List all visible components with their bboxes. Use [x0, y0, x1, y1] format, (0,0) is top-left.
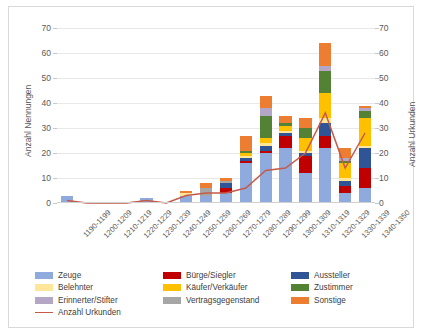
- y-tick-right: 70: [379, 24, 405, 32]
- legend-swatch: [35, 272, 53, 279]
- legend-swatch: [35, 312, 53, 313]
- legend-item[interactable]: Vertragsgegenstand: [163, 294, 259, 306]
- y-tick-left: 40: [25, 99, 51, 107]
- y-tick-left: 20: [25, 149, 51, 157]
- legend-label: Belehnter: [58, 283, 93, 292]
- legend-label: Anzahl Urkunden: [58, 308, 121, 317]
- y-tick-mark-right: [375, 178, 379, 179]
- y-tick-right: 10: [379, 174, 405, 182]
- line-series-overlay: [57, 28, 375, 203]
- y-tick-right: 20: [379, 149, 405, 157]
- y-tick-mark-right: [375, 78, 379, 79]
- y-tick-left: 70: [25, 24, 51, 32]
- legend-label: Käufer/Verkäufer: [186, 283, 247, 292]
- plot-area: [57, 28, 375, 203]
- legend-swatch: [35, 297, 53, 304]
- legend-item[interactable]: Zeuge: [35, 269, 81, 281]
- legend-label: Bürge/Siegler: [186, 271, 236, 280]
- legend-swatch: [291, 272, 309, 279]
- legend-item[interactable]: Aussteller: [291, 269, 350, 281]
- y-tick-left: 10: [25, 174, 51, 182]
- y-tick-mark-right: [375, 128, 379, 129]
- legend-label: Zeuge: [58, 271, 81, 280]
- legend-item[interactable]: Erinnerter/Stifter: [35, 294, 118, 306]
- y-tick-right: 50: [379, 74, 405, 82]
- y-tick-left: 30: [25, 124, 51, 132]
- legend-swatch: [163, 284, 181, 291]
- legend-item[interactable]: Zustimmer: [291, 282, 353, 294]
- legend-item[interactable]: Sonstige: [291, 294, 346, 306]
- legend-item[interactable]: Bürge/Siegler: [163, 269, 236, 281]
- legend-item[interactable]: Anzahl Urkunden: [35, 307, 121, 319]
- y-tick-mark-right: [375, 28, 379, 29]
- y-tick-right: 30: [379, 124, 405, 132]
- legend-label: Sonstige: [314, 296, 346, 305]
- legend-swatch: [163, 297, 181, 304]
- legend-label: Erinnerter/Stifter: [58, 296, 118, 305]
- y-tick-mark-right: [375, 203, 379, 204]
- y-tick-left: 60: [25, 49, 51, 57]
- legend-item[interactable]: Belehnter: [35, 282, 93, 294]
- chart-legend: ZeugeBürge/SieglerAusstellerBelehnterKäu…: [35, 269, 387, 321]
- y-tick-right: 40: [379, 99, 405, 107]
- y-tick-mark-right: [375, 103, 379, 104]
- legend-item[interactable]: Käufer/Verkäufer: [163, 282, 247, 294]
- y-tick-right: 0: [379, 199, 405, 207]
- legend-swatch: [163, 272, 181, 279]
- y-tick-mark-left: [53, 203, 57, 204]
- x-axis-labels: 1190-11991200-12091210-12191220-12291230…: [57, 205, 375, 267]
- chart-container: Anzahl Nennungen Anzahl Urkunden 0102030…: [8, 6, 414, 328]
- y-axis-left-title: Anzahl Nennungen: [23, 85, 33, 157]
- anzahl-urkunden-line: [67, 113, 365, 203]
- legend-swatch: [291, 284, 309, 291]
- y-tick-mark-right: [375, 153, 379, 154]
- x-axis-line: [57, 202, 375, 203]
- y-tick-left: 0: [25, 199, 51, 207]
- legend-label: Vertragsgegenstand: [186, 296, 259, 305]
- legend-swatch: [35, 284, 53, 291]
- y-tick-mark-right: [375, 53, 379, 54]
- legend-swatch: [291, 297, 309, 304]
- legend-label: Aussteller: [314, 271, 350, 280]
- y-tick-right: 60: [379, 49, 405, 57]
- legend-label: Zustimmer: [314, 283, 353, 292]
- y-tick-left: 50: [25, 74, 51, 82]
- y-axis-right-title: Anzahl Urkunden: [407, 102, 417, 167]
